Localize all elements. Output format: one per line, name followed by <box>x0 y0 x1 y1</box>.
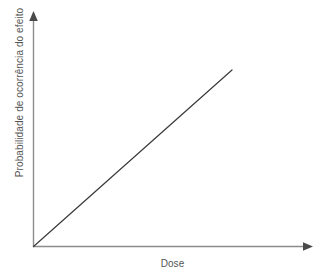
arrow-up-icon <box>29 11 38 21</box>
chart-plot-area <box>0 0 327 277</box>
arrow-right-icon <box>303 242 313 251</box>
y-axis-label: Probabilidade de ocorrência do efeito <box>13 0 27 231</box>
x-axis-label: Dose <box>33 257 312 271</box>
chart-container: Probabilidade de ocorrência do efeito Do… <box>0 0 327 277</box>
data-line-dose-response <box>34 70 233 247</box>
